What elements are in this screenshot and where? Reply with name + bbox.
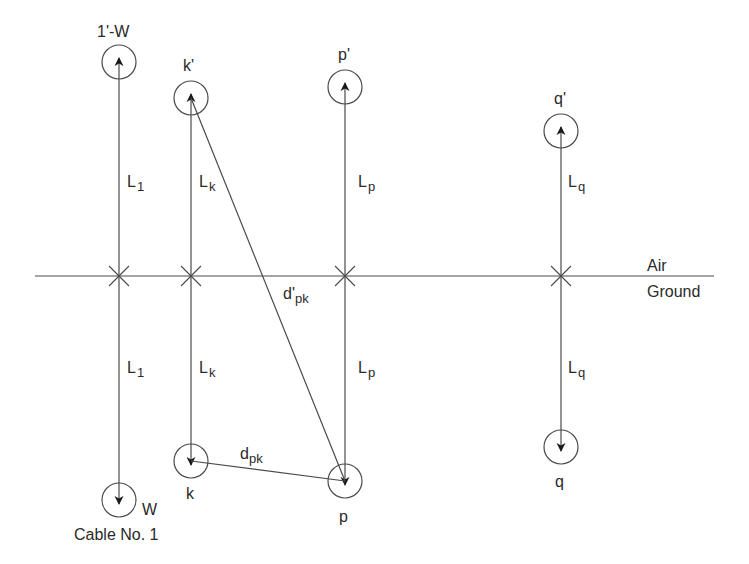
- label-ground: Ground: [647, 284, 700, 300]
- distance-line-dpk: [191, 461, 345, 481]
- diagram-canvas: [0, 0, 749, 564]
- conductor-k: [174, 81, 208, 478]
- length-label-lower-p: Lp: [358, 360, 375, 376]
- label-real-k: k: [186, 486, 194, 502]
- label-image-k: k': [183, 58, 194, 74]
- label-air: Air: [647, 258, 667, 274]
- label-image-1: 1'-W: [97, 24, 129, 40]
- length-label-lower-q: Lq: [568, 360, 585, 376]
- length-label-upper-1: L1: [127, 174, 144, 190]
- length-label-upper-q: Lq: [568, 174, 585, 190]
- length-label-lower-1: L1: [127, 360, 144, 376]
- label-real-w: W: [142, 502, 157, 518]
- distance-label-dprime-pk: d'pk: [283, 286, 309, 302]
- label-image-q: q': [554, 91, 566, 107]
- conductor-1: [102, 45, 136, 517]
- distance-line-dprime-pk: [191, 98, 345, 481]
- conductor-q: [544, 114, 578, 464]
- label-image-p: p': [338, 47, 350, 63]
- cable-caption: Cable No. 1: [74, 527, 159, 543]
- length-label-lower-k: Lk: [199, 360, 215, 376]
- label-real-q: q: [555, 474, 564, 490]
- distance-label-dpk: dpk: [240, 446, 263, 462]
- label-real-p: p: [339, 509, 348, 525]
- conductor-p: [328, 70, 362, 498]
- length-label-upper-p: Lp: [358, 174, 375, 190]
- length-label-upper-k: Lk: [199, 174, 215, 190]
